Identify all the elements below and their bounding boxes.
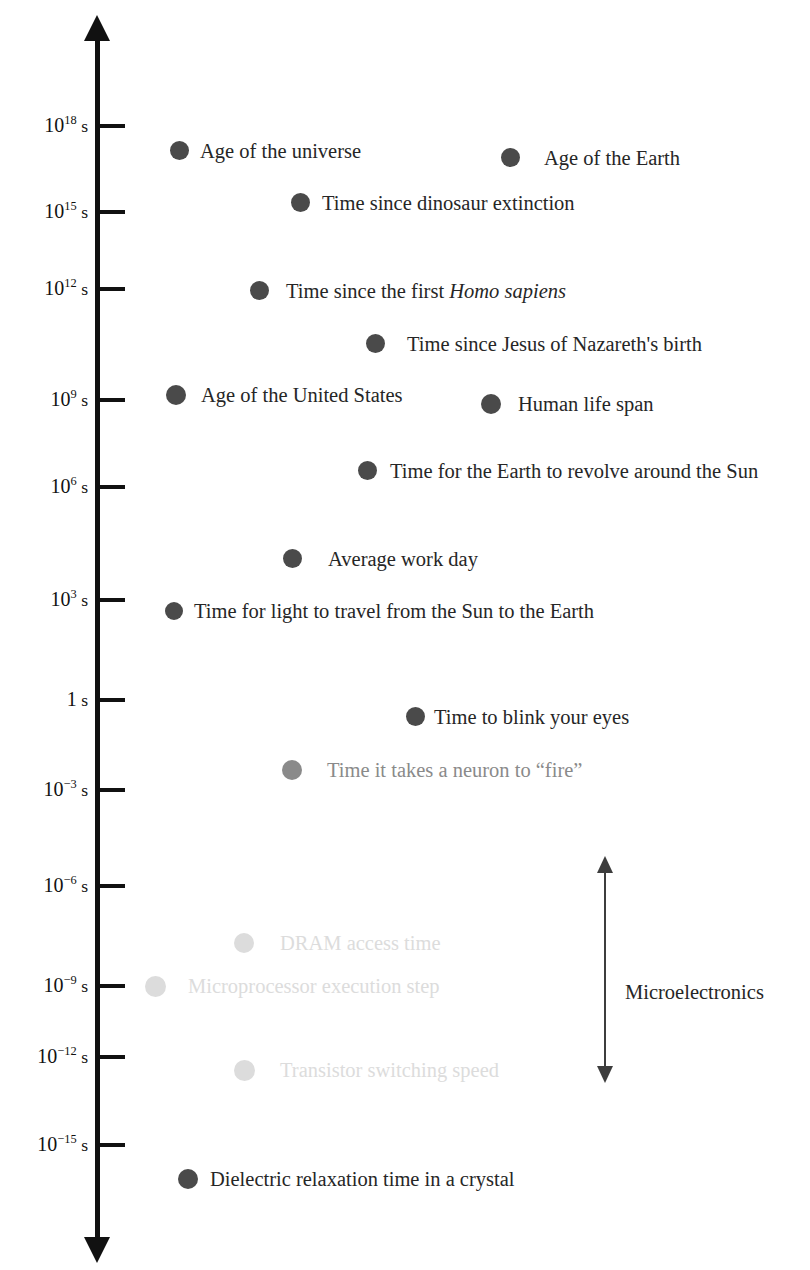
axis-tick-label: 1018 s <box>44 115 88 136</box>
data-point: Average work day <box>283 549 478 570</box>
data-point-marker-icon <box>145 976 166 997</box>
data-point-marker-icon <box>178 1169 198 1189</box>
axis-arrow-up-icon <box>84 15 110 41</box>
axis-tick-label: 1015 s <box>44 201 88 222</box>
axis-tick-mark <box>99 210 125 214</box>
axis-tick-label: 106 s <box>51 476 88 497</box>
data-point-label: Time for light to travel from the Sun to… <box>194 601 594 622</box>
data-point-label: Age of the Earth <box>544 148 680 169</box>
microelectronics-arrow-down-icon <box>597 1066 613 1083</box>
data-point-label: Time since the first Homo sapiens <box>286 281 566 302</box>
data-point: Age of the universe <box>170 141 361 162</box>
axis-arrow-down-icon <box>84 1237 110 1263</box>
data-point-label: Human life span <box>518 394 654 415</box>
data-point: Time since dinosaur extinction <box>291 193 575 214</box>
data-point: Time for light to travel from the Sun to… <box>165 601 594 622</box>
axis-tick-mark <box>99 485 125 489</box>
data-point-label: Transistor switching speed <box>280 1060 499 1081</box>
microelectronics-arrow-up-icon <box>597 856 613 873</box>
data-point: Age of the Earth <box>501 148 680 169</box>
axis-tick-label: 10−3 s <box>44 779 88 800</box>
data-point-marker-icon <box>366 334 385 353</box>
data-point: Time it takes a neuron to “fire” <box>282 760 582 781</box>
data-point-marker-icon <box>481 394 501 414</box>
data-point: Time since Jesus of Nazareth's birth <box>366 334 702 355</box>
data-point-label: Time for the Earth to revolve around the… <box>390 461 758 482</box>
timescale-chart: 1018 s1015 s1012 s109 s106 s103 s1 s10−3… <box>0 0 810 1270</box>
microelectronics-label: Microelectronics <box>625 982 764 1003</box>
axis-tick-label: 10−15 s <box>37 1134 88 1155</box>
data-point-label: Dielectric relaxation time in a crystal <box>210 1169 515 1190</box>
data-point: Dielectric relaxation time in a crystal <box>178 1169 515 1190</box>
axis-tick-label: 10−12 s <box>37 1046 88 1067</box>
data-point-marker-icon <box>358 461 377 480</box>
data-point-label: Time since Jesus of Nazareth's birth <box>407 334 702 355</box>
data-point-marker-icon <box>234 933 254 953</box>
axis-tick-mark <box>99 398 125 402</box>
microelectronics-range-line <box>604 872 606 1067</box>
axis-tick-mark <box>99 1143 125 1147</box>
data-point-label: Time since dinosaur extinction <box>322 193 575 214</box>
data-point: Transistor switching speed <box>234 1060 499 1081</box>
data-point-marker-icon <box>165 602 183 620</box>
axis-tick-label: 109 s <box>51 389 88 410</box>
data-point-label: Time to blink your eyes <box>434 707 629 728</box>
data-point-marker-icon <box>234 1060 255 1081</box>
axis-tick-mark <box>99 698 125 702</box>
axis-tick-label: 10−9 s <box>44 975 88 996</box>
data-point: Age of the United States <box>166 385 403 406</box>
axis-tick-label: 1012 s <box>44 278 88 299</box>
axis-tick-mark <box>99 124 125 128</box>
data-point: Time for the Earth to revolve around the… <box>358 461 758 482</box>
data-point-marker-icon <box>501 148 520 167</box>
axis-tick-mark <box>99 788 125 792</box>
data-point-marker-icon <box>166 385 186 405</box>
data-point-marker-icon <box>406 707 425 726</box>
data-point-marker-icon <box>250 281 269 300</box>
data-point: Human life span <box>481 394 654 415</box>
axis-tick-mark <box>99 884 125 888</box>
data-point-label: Microprocessor execution step <box>188 976 440 997</box>
axis-tick-label: 1 s <box>67 689 88 710</box>
data-point-label: Age of the United States <box>201 385 403 406</box>
axis-tick-mark <box>99 1055 125 1059</box>
data-point-marker-icon <box>170 141 189 160</box>
data-point: Time to blink your eyes <box>406 707 629 728</box>
axis-tick-mark <box>99 287 125 291</box>
axis-tick-mark <box>99 984 125 988</box>
axis-tick-label: 103 s <box>51 589 88 610</box>
data-point-label: DRAM access time <box>280 933 441 954</box>
axis-tick-mark <box>99 598 125 602</box>
data-point-label: Age of the universe <box>200 141 361 162</box>
data-point-label: Average work day <box>328 549 478 570</box>
data-point-label: Time it takes a neuron to “fire” <box>327 760 582 781</box>
data-point: Microprocessor execution step <box>145 976 440 997</box>
axis-tick-label: 10−6 s <box>44 875 88 896</box>
data-point: Time since the first Homo sapiens <box>250 281 566 302</box>
data-point-marker-icon <box>283 549 302 568</box>
data-point-marker-icon <box>291 193 310 212</box>
data-point: DRAM access time <box>234 933 441 954</box>
data-point-marker-icon <box>282 760 302 780</box>
